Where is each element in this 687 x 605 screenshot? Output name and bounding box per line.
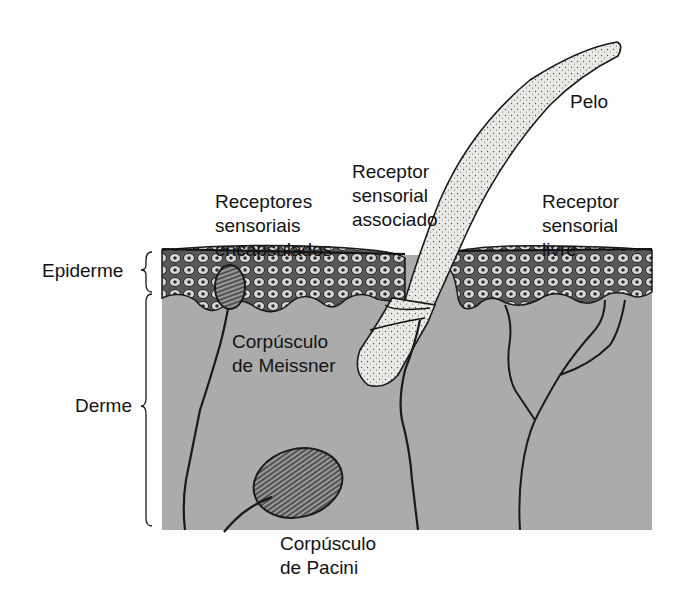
skin-receptors-diagram: Pelo Receptor sensorial associado Recept… [0, 0, 687, 605]
meissner-corpuscle [215, 265, 245, 309]
dermis-brace [141, 294, 152, 526]
label-receptor-livre: Receptor sensorial livre [542, 190, 619, 262]
label-derme: Derme [75, 394, 132, 418]
label-epiderme: Epiderme [42, 259, 123, 283]
label-receptores-encapsulados: Receptores sensoriais encapsulados [215, 190, 332, 262]
label-meissner: Corpúsculo de Meissner [232, 330, 336, 378]
label-receptor-associado: Receptor sensorial associado [352, 160, 438, 232]
epidermis-brace [141, 252, 152, 292]
label-pelo: Pelo [570, 90, 608, 114]
label-pacini: Corpúsculo de Pacini [280, 532, 376, 580]
